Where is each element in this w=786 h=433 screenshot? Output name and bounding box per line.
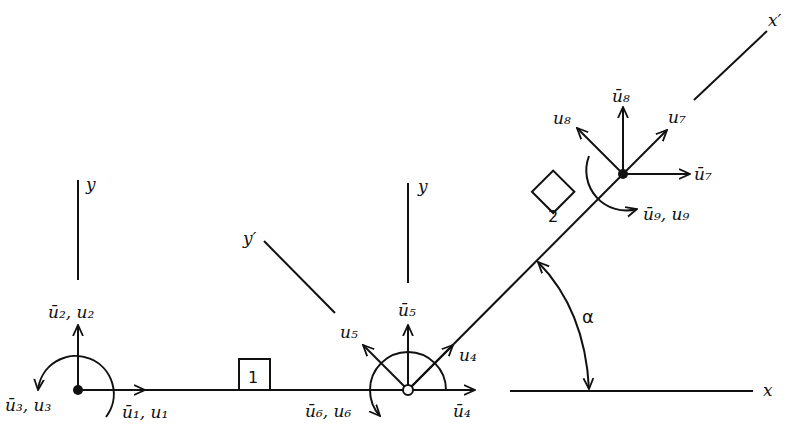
element-2-label: 2 bbox=[548, 207, 558, 226]
u3-label: ū₃, u₃ bbox=[5, 395, 52, 415]
u6-label: ū₆, u₆ bbox=[305, 401, 352, 421]
node-2-point bbox=[403, 385, 413, 395]
element-1-marker: 1 bbox=[239, 359, 270, 390]
u6-rotation-arrow bbox=[370, 390, 380, 416]
node-3-group: x′ ū₈ u₈ u₇ ū₇ ū₉, u₉ bbox=[553, 10, 782, 224]
u7-global-label: ū₇ bbox=[694, 164, 712, 184]
u2-label: ū₂, u₂ bbox=[48, 302, 95, 322]
angle-group: x α bbox=[510, 262, 773, 400]
global-x-axis-label: x bbox=[763, 380, 773, 400]
u4-local-label: u₄ bbox=[459, 345, 477, 365]
local-x-axis bbox=[694, 31, 767, 100]
u7-local-arrow bbox=[623, 130, 667, 174]
alpha-label: α bbox=[582, 306, 594, 327]
frame-diagram: y ū₂, u₂ ū₃, u₃ ū₁, u₁ 1 y y′ bbox=[0, 0, 786, 433]
u9-label: ū₉, u₉ bbox=[643, 204, 690, 224]
node1-y-axis-label: y bbox=[85, 174, 96, 194]
u5-global-label: ū₅ bbox=[398, 300, 416, 320]
u5-local-label: u₅ bbox=[340, 322, 358, 342]
u1-label: ū₁, u₁ bbox=[122, 402, 168, 422]
local-x-axis-label: x′ bbox=[768, 10, 782, 30]
u8-global-label: ū₈ bbox=[612, 86, 630, 106]
node-2-group: y y′ ū₅ u₅ u₄ ū₄ ū₆, u₆ bbox=[242, 174, 623, 421]
node-1-point bbox=[73, 385, 83, 395]
node2-y-axis-label: y bbox=[417, 176, 428, 196]
local-y-axis-label: y′ bbox=[242, 228, 257, 248]
node-3-point bbox=[618, 169, 628, 179]
u8-local-label: u₈ bbox=[553, 108, 571, 128]
local-y-axis bbox=[264, 241, 335, 313]
u8-local-arrow bbox=[577, 128, 623, 174]
u7-local-label: u₇ bbox=[668, 107, 686, 127]
element-1-label: 1 bbox=[248, 368, 258, 387]
u4-global-label: ū₄ bbox=[453, 401, 471, 421]
